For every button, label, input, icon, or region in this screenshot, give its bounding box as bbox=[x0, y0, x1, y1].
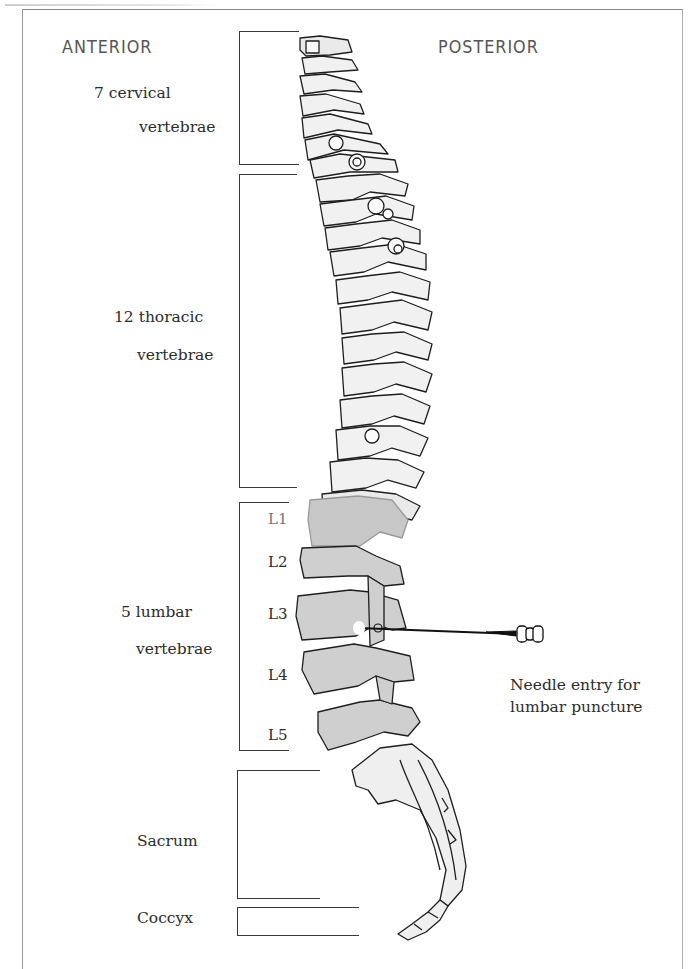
needle-hub bbox=[517, 626, 543, 642]
needle-annotation-line1: Needle entry for bbox=[510, 676, 640, 694]
cervical-vertebrae bbox=[300, 36, 398, 178]
sacrum bbox=[352, 744, 466, 906]
thoracic-vertebrae bbox=[316, 174, 432, 526]
coccyx bbox=[398, 900, 448, 940]
needle-annotation-line2: lumbar puncture bbox=[510, 698, 643, 716]
